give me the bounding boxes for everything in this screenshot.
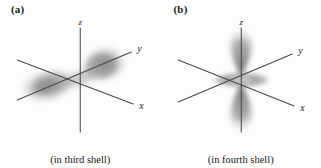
p-orbital-lobes [17,42,131,107]
orbital-figure: (a) [0,0,321,168]
z-axis-label: z [77,17,82,27]
panel-a-caption: (in third shell) [0,154,161,165]
panel-b: (b) [161,0,321,168]
y-axis-label: y [297,45,303,56]
y-axis-label: y [136,43,142,54]
panel-a: (a) [0,0,161,168]
panel-b-orbital-diagram: z y x [161,14,321,140]
panel-b-caption: (in fourth shell) [161,154,321,165]
x-axis-label: x [138,100,144,111]
z-axis-label: z [238,17,243,27]
panel-a-orbital-diagram: z y x [0,14,161,140]
x-axis-label: x [299,102,305,113]
